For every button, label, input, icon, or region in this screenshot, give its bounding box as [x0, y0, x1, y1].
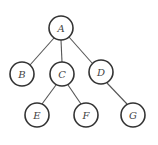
- node-label-e: E: [32, 110, 41, 121]
- node-c: C: [50, 62, 74, 86]
- node-b: B: [10, 62, 34, 86]
- node-label-c: C: [58, 69, 66, 80]
- node-f: F: [74, 103, 98, 127]
- edge-c-f: [68, 85, 81, 104]
- node-label-g: G: [129, 110, 137, 121]
- edge-c-e: [42, 85, 56, 104]
- edge-d-g: [107, 83, 127, 104]
- node-d: D: [89, 60, 113, 84]
- edge-a-c: [61, 40, 62, 62]
- node-label-d: D: [96, 67, 105, 78]
- node-label-f: F: [82, 110, 91, 121]
- node-label-b: B: [17, 69, 25, 80]
- edge-a-b: [30, 38, 54, 65]
- nodes: A B C D E F G: [10, 16, 145, 127]
- node-g: G: [121, 103, 145, 127]
- node-e: E: [25, 103, 49, 127]
- node-label-a: A: [56, 23, 64, 34]
- tree-diagram: A B C D E F G: [0, 0, 158, 145]
- node-a: A: [49, 16, 73, 40]
- edge-a-d: [69, 37, 92, 63]
